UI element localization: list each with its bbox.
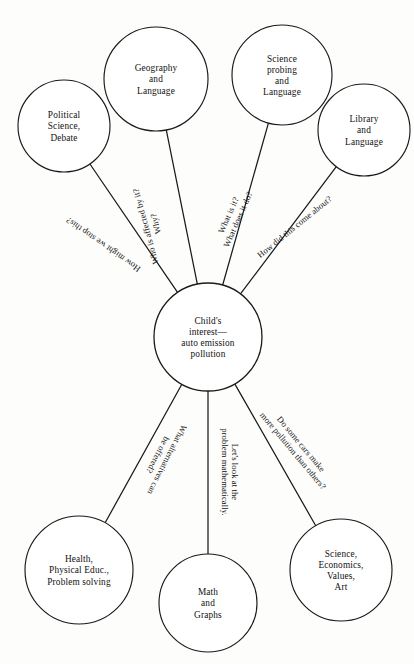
- node-center[interactable]: Child'sinterest—auto emissionpollution: [154, 283, 262, 391]
- edge-label-text-edge-lets-look-at-the-problem-mathematically: Let's look at theproblem mathematically.: [220, 428, 240, 516]
- edge-label-text-edge-what-is-it-what-does-it-do: What is it?What does it do?: [212, 186, 255, 249]
- node-geography-and-language[interactable]: GeographyandLanguage: [104, 27, 208, 131]
- node-political-science-debate[interactable]: PoliticalScience,Debate: [18, 80, 110, 172]
- edge-label-text-edge-how-did-this-come-about: How did this come about?: [255, 194, 333, 260]
- label-edge-what-alternatives-can-be-offered: What alternatives canbe offered?: [136, 419, 189, 497]
- edge-label-text-edge-who-is-affected-by-it-why: Who is affected by it?Why?: [130, 185, 170, 266]
- label-edge-do-some-cars-make-more-pollution: Do some cars makemore pollution than oth…: [258, 403, 336, 491]
- edge-label-text-edge-what-alternatives-can-be-offered: What alternatives canbe offered?: [136, 419, 189, 497]
- node-science-economics-values-art[interactable]: Science,Economics,Values,Art: [290, 519, 392, 621]
- web-diagram: PoliticalScience,DebateGeographyandLangu…: [0, 0, 414, 664]
- nodes-layer: PoliticalScience,DebateGeographyandLangu…: [18, 25, 410, 652]
- node-circle-science-economics-values-art: [290, 519, 392, 621]
- node-label-political-science-debate: PoliticalScience,Debate: [48, 110, 81, 142]
- node-science-probing-and-language[interactable]: ScienceprobingandLanguage: [232, 25, 332, 125]
- node-health-physical-educ-problem-solving[interactable]: Health,Physical Educ.,Problem solving: [25, 516, 133, 624]
- label-edge-how-did-this-come-about: How did this come about?: [255, 194, 333, 260]
- diagram-canvas: PoliticalScience,DebateGeographyandLangu…: [0, 0, 414, 664]
- label-edge-who-is-affected-by-it-why: Who is affected by it?Why?: [130, 185, 170, 266]
- node-circle-science-probing-and-language: [232, 25, 332, 125]
- edge-label-text-edge-do-some-cars-make-more-pollution: Do some cars makemore pollution than oth…: [258, 403, 336, 491]
- label-edge-lets-look-at-the-problem-mathematically: Let's look at theproblem mathematically.: [220, 428, 240, 516]
- node-circle-center: [154, 283, 262, 391]
- spoke-edge-who-is-affected-by-it-why: [166, 130, 197, 284]
- label-edge-what-is-it-what-does-it-do: What is it?What does it do?: [212, 186, 255, 249]
- node-math-and-graphs[interactable]: MathandGraphs: [159, 554, 257, 652]
- node-library-and-language[interactable]: LibraryandLanguage: [318, 84, 410, 176]
